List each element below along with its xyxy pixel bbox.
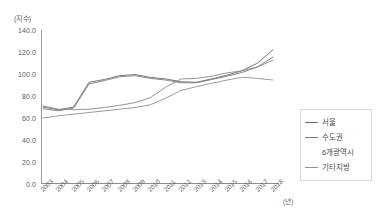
- x-tick-label: 2016: [238, 178, 253, 193]
- x-axis-unit-label: (년): [283, 196, 293, 206]
- legend-item-label: 기타지방: [322, 164, 350, 172]
- x-tick-label: 2003: [39, 178, 54, 193]
- legend-item-label: 서울: [322, 119, 336, 127]
- legend-item-4[interactable]: 기타지방: [305, 160, 367, 175]
- x-tick-label: 2009: [131, 178, 146, 193]
- x-tick-label: 2018: [269, 178, 284, 193]
- x-tick-label: 2008: [116, 178, 131, 193]
- legend-item-3[interactable]: 6개광역시: [305, 145, 367, 160]
- x-tick-label: 2012: [177, 178, 192, 193]
- chart-container: (지수) 0.020.040.060.080.0100.0120.0140.0 …: [0, 0, 384, 223]
- x-tick-label: 2010: [146, 178, 161, 193]
- x-tick-label: 2017: [254, 178, 269, 193]
- legend-item-2[interactable]: 수도권: [305, 130, 367, 145]
- x-tick-label: 2015: [223, 178, 238, 193]
- legend-item-label: 6개광역시: [322, 149, 354, 157]
- x-tick-label: 2014: [208, 178, 223, 193]
- legend-line-icon: [305, 152, 318, 154]
- legend-line-icon: [305, 167, 318, 169]
- x-tick-label: 2013: [192, 178, 207, 193]
- legend-item-label: 수도권: [322, 134, 343, 142]
- x-tick-label: 2005: [70, 178, 85, 193]
- legend-line-icon: [305, 122, 318, 124]
- legend-item-1[interactable]: 서울: [305, 115, 367, 130]
- x-tick-label: 2007: [100, 178, 115, 193]
- x-tick-label: 2004: [54, 178, 69, 193]
- chart-legend: 서울수도권6개광역시기타지방: [300, 109, 372, 181]
- x-tick-label: 2011: [162, 178, 177, 193]
- x-tick-label: 2006: [85, 178, 100, 193]
- legend-line-icon: [305, 137, 318, 139]
